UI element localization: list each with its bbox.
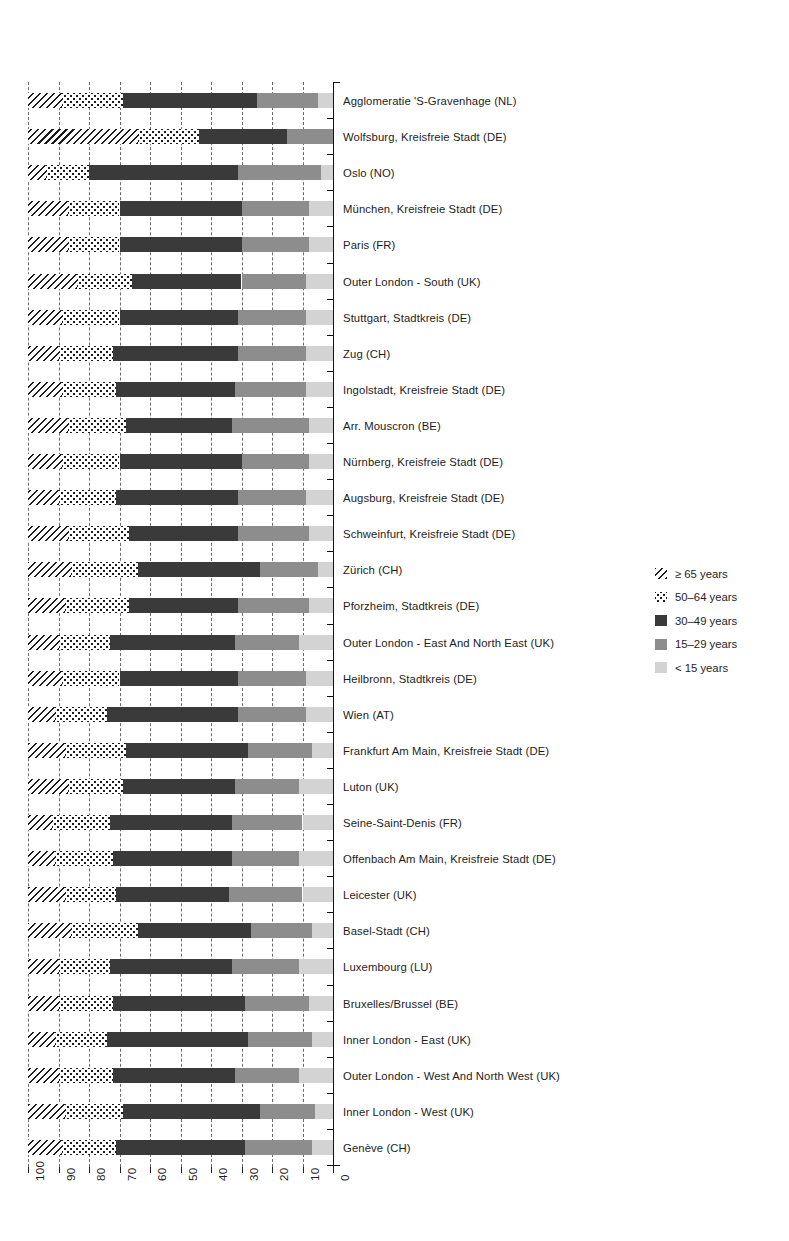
stacked-bar (28, 274, 333, 289)
table-row (28, 624, 333, 660)
table-row (28, 443, 333, 479)
legend-item[interactable]: < 15 years (655, 656, 785, 680)
x-axis-tick-100 (28, 1167, 29, 1173)
x-axis-label-80: 80 (94, 1168, 107, 1182)
bar-segment-age0014 (318, 93, 333, 108)
bar-segment-age5064 (55, 1032, 107, 1047)
table-row (28, 1057, 333, 1093)
table-row (28, 876, 333, 912)
bar-segment-age5064 (62, 1140, 117, 1155)
bar-segment-age65p (28, 815, 52, 830)
category-label: Augsburg, Kreisfreie Stadt (DE) (343, 492, 504, 504)
stacked-bar (28, 1104, 333, 1119)
category-tick (327, 840, 334, 841)
axis-spine-cap-top (333, 82, 340, 83)
category-label: Seine-Saint-Denis (FR) (343, 817, 462, 829)
bar-segment-age65p (28, 454, 62, 469)
table-row (28, 118, 333, 154)
category-label: Outer London - West And North West (UK) (343, 1070, 560, 1082)
bar-segment-age5064 (59, 959, 111, 974)
bar-segment-age65p (28, 779, 68, 794)
bar-segment-age1529 (238, 598, 308, 613)
category-label: Outer London - South (UK) (343, 276, 481, 288)
bar-segment-age5064 (65, 1104, 123, 1119)
stacked-bar (28, 815, 333, 830)
bar-segment-age3049 (126, 743, 248, 758)
bar-segment-age0014 (309, 598, 333, 613)
legend-item[interactable]: 30–49 years (655, 609, 785, 633)
bar-segment-age0014 (321, 165, 333, 180)
bar-segment-age3049 (132, 274, 242, 289)
x-axis-label-90: 90 (64, 1168, 77, 1182)
category-tick (327, 948, 334, 949)
bar-segment-age0014 (306, 274, 333, 289)
bar-segment-age65p (28, 1068, 59, 1083)
legend-item[interactable]: 50–64 years (655, 586, 785, 610)
category-label: Inner London - East (UK) (343, 1034, 471, 1046)
bar-segment-age65p (28, 382, 62, 397)
legend-item[interactable]: 15–29 years (655, 633, 785, 657)
x-axis-tick-40 (211, 1167, 212, 1173)
category-label: Basel-Stadt (CH) (343, 925, 430, 937)
bar-segment-age0014 (303, 815, 334, 830)
category-tick (327, 154, 334, 155)
bar-segment-age5064 (55, 707, 107, 722)
bar-segment-age5064 (62, 454, 120, 469)
bar-segment-age0014 (312, 743, 333, 758)
bar-segment-age1529 (257, 93, 318, 108)
bar-segment-age1529 (238, 707, 305, 722)
x-axis-label-50: 50 (186, 1168, 199, 1182)
bar-segment-age3049 (120, 671, 239, 686)
legend-item[interactable]: ≥ 65 years (655, 562, 785, 586)
bar-segment-age1529 (238, 671, 305, 686)
bar-segment-age1529 (238, 490, 305, 505)
table-row (28, 768, 333, 804)
bar-segment-age1529 (229, 887, 302, 902)
category-label: Genève (CH) (343, 1142, 411, 1154)
legend-swatch-age3049 (655, 615, 667, 626)
table-row (28, 335, 333, 371)
bar-segment-age3049 (113, 1068, 235, 1083)
bar-segment-age3049 (116, 382, 235, 397)
bar-segment-age5064 (68, 526, 129, 541)
bar-segment-age5064 (71, 923, 138, 938)
bar-segment-age3049 (107, 1032, 247, 1047)
stacked-bar (28, 923, 333, 938)
bar-segment-age3049 (138, 923, 251, 938)
bar-segment-age3049 (199, 129, 287, 144)
legend-label: 50–64 years (675, 591, 737, 603)
table-row (28, 479, 333, 515)
table-row (28, 551, 333, 587)
bar-segment-age0014 (299, 779, 333, 794)
x-axis-label-70: 70 (125, 1168, 138, 1182)
bar-segment-age0014 (299, 959, 333, 974)
bar-segment-age0014 (309, 454, 333, 469)
bar-segment-age0014 (306, 707, 333, 722)
x-axis-label-40: 40 (216, 1168, 229, 1182)
table-row (28, 82, 333, 118)
category-label: Nürnberg, Kreisfreie Stadt (DE) (343, 456, 503, 468)
bar-segment-age0014 (309, 418, 333, 433)
bar-segment-age3049 (107, 707, 238, 722)
bar-segment-age3049 (138, 562, 260, 577)
bar-segment-age1529 (232, 418, 308, 433)
bar-segment-age65p (28, 707, 55, 722)
category-tick (327, 190, 334, 191)
bar-segment-age1529 (235, 635, 299, 650)
bar-segment-age65p (28, 346, 59, 361)
category-tick (327, 1021, 334, 1022)
bar-segment-age0014 (299, 635, 333, 650)
table-row (28, 732, 333, 768)
bar-segment-age65p (28, 923, 71, 938)
legend-label: 15–29 years (675, 638, 737, 650)
table-row (28, 948, 333, 984)
bar-segment-age0014 (303, 887, 334, 902)
bar-segment-age3049 (129, 598, 239, 613)
stacked-bar (28, 887, 333, 902)
table-row (28, 840, 333, 876)
bar-segment-age65p (28, 887, 65, 902)
table-row (28, 985, 333, 1021)
bar-segment-age65p (28, 237, 68, 252)
bar-segment-age65p (28, 1104, 65, 1119)
stacked-bar (28, 1140, 333, 1155)
